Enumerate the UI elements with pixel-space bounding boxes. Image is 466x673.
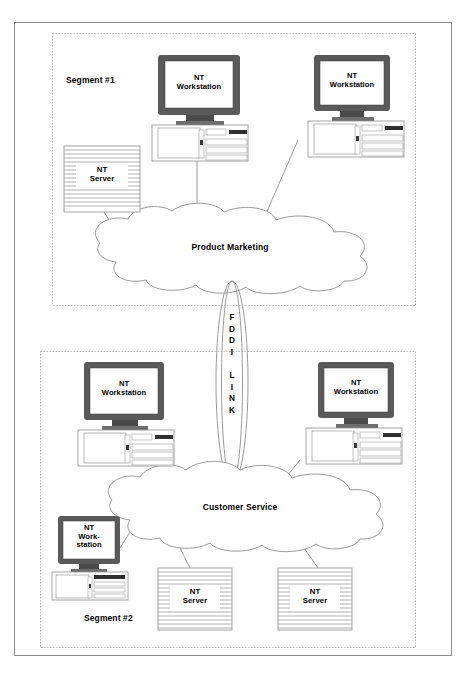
fddi-ring-inner	[222, 281, 243, 483]
srv-seg1-left-graphic[interactable]	[64, 146, 140, 212]
fddi-link-shape	[216, 281, 248, 483]
diagram-graphics	[0, 0, 466, 673]
srv-seg2-mid-graphic[interactable]	[158, 568, 232, 630]
fddi-ring-outer	[216, 281, 248, 483]
cloud-product-marketing-shape	[95, 203, 366, 293]
srv-seg2-right-graphic[interactable]	[278, 568, 352, 630]
ws-seg2-small-graphic[interactable]	[52, 516, 128, 600]
ws-seg1-right-graphic[interactable]	[308, 55, 404, 157]
ws-seg1-left-graphic[interactable]	[152, 55, 248, 161]
network-diagram-canvas: Segment #1 Segment #2 Product Marketing …	[0, 0, 466, 673]
ws-seg2-left-graphic[interactable]	[78, 362, 174, 466]
ws-seg2-right-graphic[interactable]	[306, 362, 402, 464]
cloud-customer-service-shape	[108, 461, 383, 551]
